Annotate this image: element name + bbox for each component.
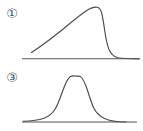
chart-panel-one: ① <box>0 0 143 65</box>
distribution-curve-one <box>32 7 140 59</box>
chart-one-plot <box>0 0 143 65</box>
distribution-curve-three <box>23 76 126 122</box>
chart-three-plot <box>0 66 143 131</box>
chart-panel-three: ③ <box>0 66 143 131</box>
distribution-curves-figure: ① ③ <box>0 0 143 131</box>
